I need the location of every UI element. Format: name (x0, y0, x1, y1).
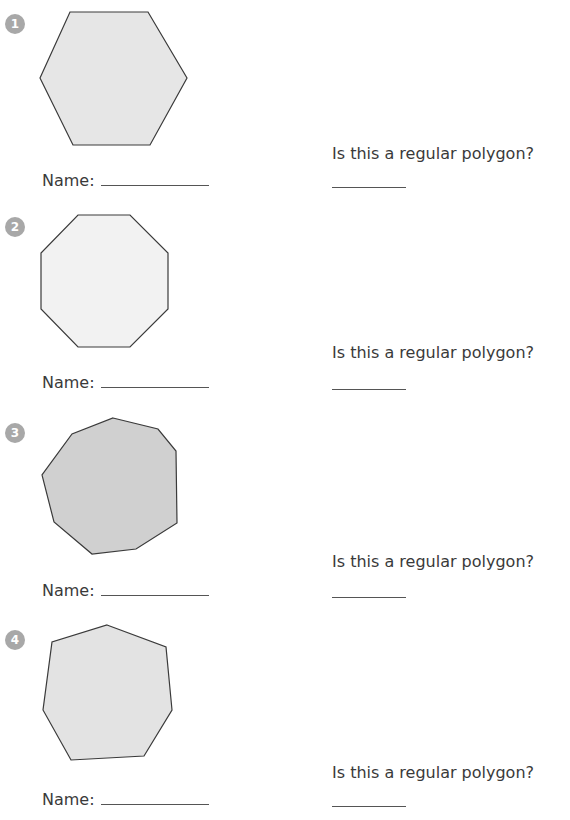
name-field: Name: (42, 790, 209, 809)
heptagon-shape (0, 0, 570, 820)
name-label: Name: (42, 790, 95, 809)
name-blank[interactable] (101, 803, 209, 805)
question-text: Is this a regular polygon? (332, 763, 534, 782)
answer-blank[interactable] (332, 806, 406, 807)
